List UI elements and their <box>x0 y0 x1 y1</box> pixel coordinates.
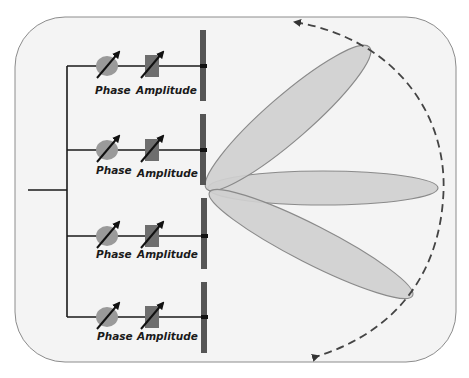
amplitude-label: Amplitude <box>135 84 197 96</box>
amplitude-label: Amplitude <box>136 248 198 260</box>
amplitude-label: Amplitude <box>136 167 198 179</box>
phase-label: Phase <box>95 84 131 96</box>
amplitude-label: Amplitude <box>136 330 198 342</box>
phase-label: Phase <box>97 330 133 342</box>
phased-array-diagram: Phase Amplitude Phase Amplitude Phase Am… <box>0 0 469 378</box>
phase-label: Phase <box>96 164 132 176</box>
phase-label: Phase <box>96 248 132 260</box>
feed-point <box>200 148 207 152</box>
feed-point <box>201 234 208 238</box>
feed-point <box>200 64 207 68</box>
feed-point <box>201 315 208 319</box>
antenna-element-3 <box>201 198 207 269</box>
